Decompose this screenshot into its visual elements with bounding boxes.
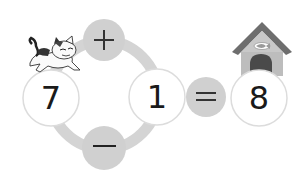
- right-operand: 1: [129, 71, 185, 123]
- left-operand: 7: [23, 72, 79, 124]
- minus-bubble[interactable]: [82, 126, 126, 170]
- house-icon: [232, 22, 292, 76]
- cat-icon: [30, 36, 80, 72]
- result-value: 8: [231, 72, 287, 124]
- equals-bubble: [186, 77, 226, 117]
- math-puzzle-diagram: 7 1 8: [0, 0, 305, 175]
